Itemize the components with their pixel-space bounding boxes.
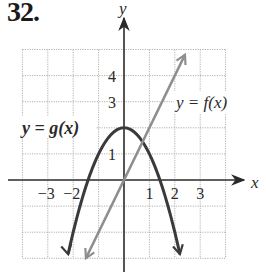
y-tick-label: 3 [108,94,116,111]
graph: −3−2123134 x y y = g(x) y = f(x) [0,0,266,278]
x-tick-label: 1 [145,185,153,202]
x-tick-label: 2 [171,185,179,202]
y-tick-label: 4 [108,68,116,85]
f-curve-label: y = f(x) [174,93,227,112]
f-curve [86,55,185,259]
x-tick-label: 3 [196,185,204,202]
arrowhead-icon [61,244,71,254]
x-tick-label: −2 [63,185,80,202]
y-axis-label: y [117,0,127,18]
y-tick-label: 1 [108,146,116,163]
axes [8,18,244,272]
x-tick-label: −3 [38,185,55,202]
g-curve-label: y = g(x) [20,118,79,139]
x-axis-label: x [250,173,259,192]
